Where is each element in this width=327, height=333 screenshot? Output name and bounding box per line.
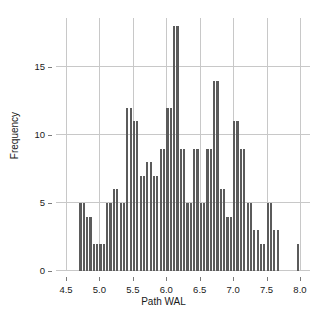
- histogram-bar: [257, 230, 259, 271]
- histogram-bar: [133, 121, 135, 271]
- histogram-bar: [203, 203, 205, 271]
- histogram-bar: [277, 230, 279, 271]
- histogram-bar: [99, 244, 101, 271]
- histogram-bar: [240, 149, 242, 271]
- x-axis-tick-label: 6.5: [185, 284, 215, 295]
- y-axis-label-container: Frequency: [6, 0, 22, 290]
- histogram-bar: [166, 108, 168, 271]
- histogram-bar: [253, 230, 255, 271]
- histogram-bar: [140, 176, 142, 271]
- histogram-bar: [260, 244, 262, 271]
- histogram-bar: [250, 203, 252, 271]
- histogram-bar: [93, 244, 95, 271]
- histogram-bars: [56, 18, 310, 271]
- histogram-bar: [83, 203, 85, 271]
- histogram-bar: [123, 203, 125, 271]
- histogram-bar: [247, 203, 249, 271]
- histogram-bar: [186, 203, 188, 271]
- histogram-bar: [89, 217, 91, 271]
- histogram-bar: [297, 244, 299, 271]
- histogram-bar: [233, 121, 235, 271]
- histogram-bar: [263, 244, 265, 271]
- y-axis-tick-mark: [48, 67, 52, 68]
- histogram-bar: [230, 217, 232, 271]
- histogram-bar: [146, 162, 148, 271]
- x-axis-tick-label: 6.0: [151, 284, 181, 295]
- histogram-bar: [216, 81, 218, 271]
- histogram-figure: Frequency 051015 4.55.05.56.06.57.07.58.…: [0, 0, 327, 333]
- histogram-bar: [176, 26, 178, 271]
- histogram-bar: [180, 149, 182, 271]
- y-axis-tick-mark: [48, 135, 52, 136]
- x-axis-tick-mark: [66, 277, 67, 281]
- y-axis-tick-label: 5: [19, 198, 45, 208]
- histogram-bar: [267, 203, 269, 271]
- histogram-bar: [120, 203, 122, 271]
- histogram-bar: [109, 203, 111, 271]
- x-axis-label: Path WAL: [0, 296, 327, 307]
- histogram-bar: [173, 26, 175, 271]
- histogram-bar: [96, 244, 98, 271]
- histogram-bar: [116, 189, 118, 271]
- histogram-bar: [236, 121, 238, 271]
- x-axis-tick-mark: [233, 277, 234, 281]
- histogram-bar: [150, 162, 152, 271]
- histogram-bar: [213, 81, 215, 271]
- x-axis-tick-mark: [267, 277, 268, 281]
- histogram-bar: [190, 203, 192, 271]
- histogram-bar: [103, 244, 105, 271]
- y-axis-tick-label: 15: [19, 62, 45, 72]
- histogram-bar: [130, 108, 132, 271]
- histogram-bar: [86, 217, 88, 271]
- histogram-bar: [183, 149, 185, 271]
- x-axis-tick-mark: [200, 277, 201, 281]
- histogram-bar: [223, 189, 225, 271]
- histogram-bar: [79, 203, 81, 271]
- histogram-bar: [200, 203, 202, 271]
- histogram-bar: [163, 149, 165, 271]
- histogram-bar: [273, 230, 275, 271]
- y-axis-tick-mark: [48, 203, 52, 204]
- x-axis-tick-label: 5.0: [84, 284, 114, 295]
- histogram-bar: [113, 189, 115, 271]
- histogram-bar: [193, 149, 195, 271]
- histogram-bar: [160, 149, 162, 271]
- x-axis-tick-mark: [99, 277, 100, 281]
- histogram-bar: [243, 149, 245, 271]
- histogram-bar: [220, 189, 222, 271]
- y-axis-tick-label: 0: [19, 266, 45, 276]
- histogram-bar: [270, 203, 272, 271]
- histogram-bar: [226, 217, 228, 271]
- x-axis-tick-label: 8.0: [285, 284, 315, 295]
- histogram-bar: [170, 108, 172, 271]
- histogram-bar: [143, 176, 145, 271]
- histogram-bar: [210, 149, 212, 271]
- histogram-bar: [106, 203, 108, 271]
- histogram-bar: [156, 176, 158, 271]
- histogram-bar: [206, 149, 208, 271]
- x-axis-tick-label: 7.5: [252, 284, 282, 295]
- histogram-bar: [126, 108, 128, 271]
- plot-area: [56, 18, 310, 271]
- y-axis-tick-mark: [48, 271, 52, 272]
- x-axis-tick-mark: [133, 277, 134, 281]
- x-axis-tick-mark: [166, 277, 167, 281]
- y-axis-label: Frequency: [9, 71, 20, 201]
- x-axis-tick-label: 5.5: [118, 284, 148, 295]
- y-axis-tick-label: 10: [19, 130, 45, 140]
- x-axis-tick-label: 4.5: [51, 284, 81, 295]
- histogram-bar: [136, 121, 138, 271]
- x-axis-tick-mark: [300, 277, 301, 281]
- histogram-bar: [196, 149, 198, 271]
- x-axis-tick-label: 7.0: [218, 284, 248, 295]
- histogram-bar: [153, 176, 155, 271]
